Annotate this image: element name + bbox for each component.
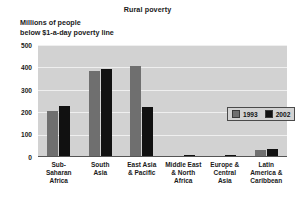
y-tick-label-300: 300 <box>0 87 32 94</box>
y-tick-label-0: 0 <box>0 154 32 161</box>
gridline <box>38 135 287 136</box>
x-tick-label-line: & North <box>163 169 205 177</box>
x-tick-label-line: Asia <box>204 177 246 185</box>
chart-title: Rural poverty <box>0 5 295 14</box>
x-tick-label-east-asia-pacific: East Asia& Pacific <box>121 161 163 177</box>
gray-swatch-icon <box>232 110 240 118</box>
chart-legend: 1993 2002 <box>227 107 295 121</box>
bar-1993-sub-saharan-africa <box>47 111 58 157</box>
y-tick-label-400: 400 <box>0 64 32 71</box>
legend-label-1993: 1993 <box>243 111 258 118</box>
x-tick-label-line: Europe & <box>204 161 246 169</box>
gridline <box>38 45 287 46</box>
rural-poverty-chart-figure: Rural poverty Millions of people below $… <box>0 0 295 203</box>
x-tick-label-line: Sub- <box>38 161 80 169</box>
x-tick-label-sub-saharan-africa: Sub-SaharanAfrica <box>38 161 80 186</box>
x-tick-label-middle-east-north-africa: Middle East& NorthAfrica <box>163 161 205 186</box>
black-swatch-icon <box>265 110 273 118</box>
x-tick-label-line: Middle East <box>163 161 205 169</box>
x-tick-label-line: Africa <box>163 177 205 185</box>
bar-2002-east-asia-pacific <box>142 107 153 157</box>
x-tick-label-europe-central-asia: Europe &CentralAsia <box>204 161 246 186</box>
bar-1993-south-asia <box>89 71 100 157</box>
legend-label-2002: 2002 <box>276 111 291 118</box>
x-tick-label-latin-america-caribbean: LatinAmerica &Caribbean <box>246 161 288 186</box>
x-tick-label-line: & Pacific <box>121 169 163 177</box>
legend-entry-2002: 2002 <box>265 110 291 118</box>
x-tick-label-line: Asia <box>80 169 122 177</box>
y-axis-label-line-2: below $1-a-day poverty line <box>20 28 114 38</box>
x-tick-label-line: Africa <box>38 177 80 185</box>
bar-1993-east-asia-pacific <box>130 66 141 157</box>
legend-entry-1993: 1993 <box>232 110 258 118</box>
x-tick-label-line: South <box>80 161 122 169</box>
y-tick-label-100: 100 <box>0 131 32 138</box>
gridline <box>38 67 287 68</box>
x-tick-label-line: East Asia <box>121 161 163 169</box>
x-tick-label-line: Central <box>204 169 246 177</box>
x-tick-label-line: Saharan <box>38 169 80 177</box>
x-axis-line <box>38 156 287 157</box>
bar-2002-south-asia <box>101 69 112 157</box>
plot-area: 1993 2002 <box>38 45 287 157</box>
gridline <box>38 90 287 91</box>
y-axis-label-line-1: Millions of people <box>20 18 114 28</box>
bar-2002-sub-saharan-africa <box>59 106 70 157</box>
x-tick-label-line: Caribbean <box>246 177 288 185</box>
x-tick-label-line: Latin <box>246 161 288 169</box>
y-tick-label-500: 500 <box>0 42 32 49</box>
x-tick-label-south-asia: SouthAsia <box>80 161 122 177</box>
x-tick-label-line: America & <box>246 169 288 177</box>
y-tick-label-200: 200 <box>0 109 32 116</box>
y-axis-label: Millions of people below $1-a-day povert… <box>20 18 114 37</box>
